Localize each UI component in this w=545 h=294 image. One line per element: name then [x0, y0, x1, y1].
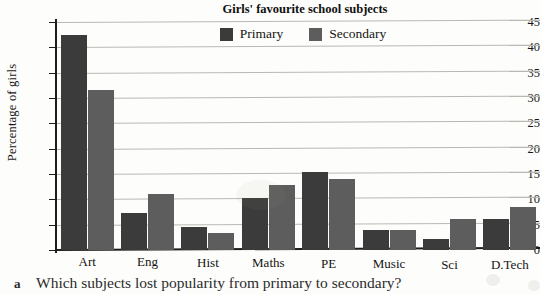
bar-secondary-sci — [450, 219, 476, 250]
bar-secondary-pe — [329, 179, 355, 250]
bar-group-art — [61, 22, 114, 250]
bar-primary-maths — [242, 198, 268, 250]
bar-group-eng — [121, 22, 174, 250]
y-tick-20 — [49, 149, 56, 150]
bar-secondary-art — [88, 90, 114, 250]
bar-secondary-maths — [269, 185, 295, 250]
bar-secondary-eng — [148, 194, 174, 250]
y-tick-45 — [49, 22, 56, 23]
bar-group-music — [363, 22, 416, 250]
bar-chart-figure: Girls' favourite school subjects Primary… — [0, 0, 540, 270]
bar-primary-art — [61, 35, 87, 250]
caption-marker: a — [14, 276, 21, 292]
y-tick-0 — [49, 250, 56, 251]
bar-primary-sci — [423, 239, 449, 250]
bar-primary-eng — [121, 213, 147, 250]
y-tick-25 — [49, 123, 56, 124]
y-tick-40 — [49, 47, 56, 48]
bar-group-dtech — [483, 22, 536, 250]
bar-group-maths — [242, 22, 295, 250]
caption-row: a Which subjects lost popularity from pr… — [0, 276, 540, 294]
bar-group-hist — [181, 22, 234, 250]
bar-primary-hist — [181, 227, 207, 250]
bar-primary-dtech — [483, 219, 509, 250]
y-tick-5 — [49, 225, 56, 226]
bar-secondary-hist — [208, 233, 234, 250]
bar-primary-pe — [302, 172, 328, 250]
bar-secondary-music — [390, 230, 416, 250]
x-tick-label-dtech: D.Tech — [470, 257, 545, 273]
bar-primary-music — [363, 230, 389, 250]
bar-secondary-dtech — [510, 207, 536, 250]
bar-group-sci — [423, 22, 476, 250]
y-tick-15 — [49, 174, 56, 175]
plot-area — [57, 22, 540, 250]
y-tick-10 — [49, 199, 56, 200]
caption-text: Which subjects lost popularity from prim… — [36, 276, 401, 292]
y-axis-title: Percentage of girls — [5, 43, 20, 183]
y-tick-35 — [49, 73, 56, 74]
bar-group-pe — [302, 22, 355, 250]
y-tick-30 — [49, 98, 56, 99]
chart-title: Girls' favourite school subjects — [0, 2, 540, 17]
